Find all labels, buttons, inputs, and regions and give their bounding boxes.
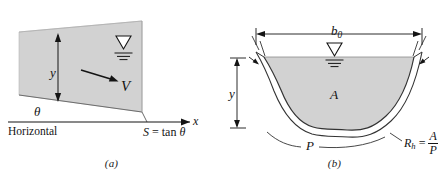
rh-numerator: A	[428, 130, 437, 144]
rh-subscript: h	[411, 141, 415, 151]
top-width-arrow-left-icon	[256, 31, 265, 37]
perimeter-label: P	[306, 139, 314, 152]
right-bank-extension-inner	[413, 41, 418, 56]
panel-a-drawing	[0, 0, 223, 175]
caption-b: (b)	[223, 157, 446, 169]
bed-extension-line	[142, 112, 147, 122]
horizontal-label: Horizontal	[8, 126, 57, 138]
rh-denominator: P	[428, 144, 437, 157]
slope-tan-theta: tan θ	[162, 125, 186, 139]
panel-a-inclined-channel: y V θ Horizontal x S=tan θ (a)	[0, 0, 223, 175]
panel-b-channel-cross-section: b0 y A P Rh=AP (b)	[223, 0, 446, 175]
hydraulic-radius-label: Rh=AP	[404, 131, 438, 157]
depth-label-b: y	[229, 87, 235, 100]
figure-container: y V θ Horizontal x S=tan θ (a)	[0, 0, 446, 175]
depth-arrow-bottom-icon	[234, 120, 240, 128]
left-bank-extension	[252, 36, 259, 50]
hydraulic-radius-leader-line-icon	[390, 133, 402, 141]
perimeter-leader-line-right	[319, 137, 385, 148]
velocity-label: V	[121, 79, 130, 94]
flow-slab-shape	[19, 21, 142, 112]
rh-fraction: AP	[428, 130, 437, 156]
rh-equals: =	[419, 136, 426, 150]
slope-equals: =	[152, 125, 159, 139]
depth-arrow-top-icon	[234, 58, 240, 66]
water-surface-triangle-icon-b	[326, 43, 344, 67]
x-axis-label: x	[193, 115, 198, 127]
depth-label-a: y	[50, 66, 56, 79]
caption-a: (a)	[0, 157, 223, 169]
left-wall-pointer-icon	[253, 59, 259, 65]
flow-area-shape	[264, 57, 414, 130]
left-bank-extension-inner	[260, 41, 265, 56]
area-label: A	[330, 88, 338, 102]
top-width-arrow-right-icon	[413, 31, 422, 37]
perimeter-leader-line-icon	[267, 132, 301, 147]
angle-theta-label: θ	[34, 105, 40, 118]
top-width-subscript: 0	[338, 30, 343, 40]
slope-equation-label: S=tan θ	[143, 126, 185, 138]
right-bank-extension	[419, 36, 426, 50]
slope-symbol: S	[143, 125, 149, 139]
top-width-label: b0	[331, 24, 342, 40]
